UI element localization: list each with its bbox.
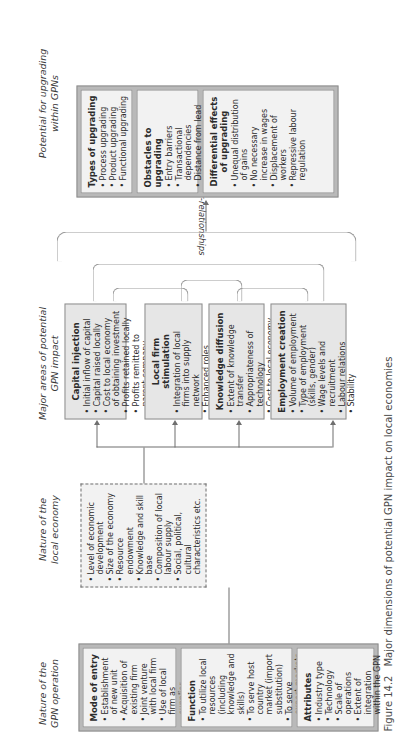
list-item: Process upgrading bbox=[98, 95, 107, 187]
list-item: Capital raised locally bbox=[92, 309, 101, 413]
span-bracket-to-upgrading bbox=[56, 231, 356, 261]
panel-differential-effects: Differential effects of upgrading Unequa… bbox=[202, 89, 334, 193]
list-item: Transactional dependencies bbox=[174, 95, 193, 187]
panel-types-of-upgrading: Types of upgrading Process upgrading Pro… bbox=[80, 89, 132, 193]
feed-capital-injection bbox=[96, 423, 97, 447]
panel-items: Industry type Technology Scale of operat… bbox=[314, 653, 381, 721]
panel-title: Mode of entry bbox=[88, 653, 98, 721]
list-item: Appropriateness of technology bbox=[245, 309, 264, 413]
list-item: Knowledge and skill base bbox=[135, 489, 154, 581]
figure-canvas: Nature of the GPN operation Nature of th… bbox=[0, 0, 405, 753]
list-item: Industry type bbox=[314, 653, 323, 721]
list-item: No necessary increase in wages bbox=[249, 95, 268, 187]
feed-knowledge-diffusion bbox=[238, 423, 239, 447]
panel-items: Volume of employment Type of employment … bbox=[288, 309, 356, 413]
list-item: Social, political, cultural characterist… bbox=[173, 489, 201, 581]
panel-title: Employment creation bbox=[276, 309, 286, 413]
list-item: Labour relations bbox=[337, 309, 346, 413]
figure-caption: Figure 14.2Major dimensions of potential… bbox=[382, 356, 393, 731]
panel-function: Function To utilize local resources (inc… bbox=[180, 647, 292, 727]
arrow-to-upgrading bbox=[202, 200, 208, 205]
panel-items: Level of economic development Size of th… bbox=[86, 489, 201, 581]
list-item: Type of employment (skills, gender) bbox=[298, 309, 317, 413]
panel-local-firm-stimulation: Local firm stimulation Integration of lo… bbox=[144, 303, 202, 419]
list-item: To utilize local resources (including kn… bbox=[198, 653, 245, 721]
panel-title: Attributes bbox=[302, 653, 312, 721]
panel-title: Obstacles to upgrading bbox=[142, 95, 162, 187]
panel-title: Knowledge diffusion bbox=[214, 309, 224, 413]
panel-items: Process upgrading Product upgrading Func… bbox=[98, 95, 127, 187]
list-item: Displacement of workers bbox=[269, 95, 288, 187]
connector-to-upgrading bbox=[205, 203, 206, 231]
list-item: Level of economic development bbox=[86, 489, 105, 581]
panel-title: Differential effects of upgrading bbox=[208, 95, 228, 187]
bus-vertical bbox=[96, 446, 332, 447]
list-item: Composition of local labour supply bbox=[154, 489, 173, 581]
list-item: Wage levels and recruitment bbox=[317, 309, 336, 413]
list-item: Establishment of new unit bbox=[100, 653, 119, 721]
list-item: Product upgrading bbox=[108, 95, 117, 187]
feed-employment-creation bbox=[332, 423, 333, 447]
list-item: Extent of knowledge transfer bbox=[226, 309, 245, 413]
figure-number: Figure 14.2 bbox=[382, 675, 393, 731]
panel-employment-creation: Employment creation Volume of employment… bbox=[270, 303, 346, 419]
figure-caption-text: Major dimensions of potential GPN impact… bbox=[382, 356, 393, 666]
list-item: Profits retained locally bbox=[121, 309, 130, 413]
panel-knowledge-diffusion: Knowledge diffusion Extent of knowledge … bbox=[208, 303, 264, 419]
list-item: Resource endowment bbox=[115, 489, 134, 581]
bus-local-to-impact bbox=[143, 447, 144, 483]
list-item: Stability bbox=[346, 309, 355, 413]
list-item: Entry barriers bbox=[164, 95, 173, 187]
panel-items: Establishment of new unit Acquisition of… bbox=[100, 653, 186, 721]
list-item: Scale of operations bbox=[334, 653, 353, 721]
panel-mode-of-entry: Mode of entry Establishment of new unit … bbox=[82, 647, 176, 727]
interrelation-bracket-outer bbox=[92, 263, 324, 301]
panel-title: Function bbox=[186, 653, 196, 721]
panel-title: Local firm stimulation bbox=[150, 309, 170, 413]
connector-gpn-to-local bbox=[228, 587, 229, 643]
list-item: Size of the economy bbox=[105, 489, 114, 581]
column-heading-local-economy: Nature of the local economy bbox=[36, 481, 60, 577]
list-item: Repressive labour regulation bbox=[288, 95, 307, 187]
list-item: Functional upgrading bbox=[118, 95, 127, 187]
arrow-capital-injection bbox=[93, 420, 99, 425]
panel-local-economy: Level of economic development Size of th… bbox=[80, 483, 206, 587]
panel-obstacles-to-upgrading: Obstacles to upgrading Entry barriers Tr… bbox=[136, 89, 198, 193]
list-item: Extent of integration within the GPN bbox=[353, 653, 381, 721]
list-item: Joint venture with local firm bbox=[139, 653, 158, 721]
list-item: To serve host country market (import sub… bbox=[246, 653, 284, 721]
list-item: Volume of employment bbox=[288, 309, 297, 413]
panel-attributes: Attributes Industry type Technology Scal… bbox=[296, 647, 374, 727]
list-item: Unequal distribution of gains bbox=[230, 95, 249, 187]
list-item: Technology bbox=[324, 653, 333, 721]
list-item: Integration of local firms into supply n… bbox=[172, 309, 200, 413]
column-heading-impact-areas: Major areas of potential GPN impact bbox=[36, 303, 60, 423]
list-item: Initial inflow of capital bbox=[82, 309, 91, 413]
arrow-local-firm-stimulation bbox=[171, 420, 177, 425]
list-item: Acquisition of existing firm bbox=[119, 653, 138, 721]
arrow-employment-creation bbox=[329, 420, 335, 425]
panel-items: Extent of knowledge transfer Appropriate… bbox=[226, 309, 274, 413]
panel-capital-injection: Capital injection Initial inflow of capi… bbox=[64, 303, 126, 419]
panel-title: Capital injection bbox=[70, 309, 80, 413]
panel-title: Types of upgrading bbox=[86, 95, 96, 187]
arrow-knowledge-diffusion bbox=[235, 420, 241, 425]
column-heading-gpn-operation: Nature of the GPN operation bbox=[36, 645, 60, 741]
panel-items: Unequal distribution of gains No necessa… bbox=[230, 95, 307, 187]
list-item: Cost to local economy of obtaining inves… bbox=[102, 309, 121, 413]
column-heading-upgrading: Potential for upgrading within GPNs bbox=[36, 43, 60, 163]
feed-local-firm-stimulation bbox=[174, 423, 175, 447]
